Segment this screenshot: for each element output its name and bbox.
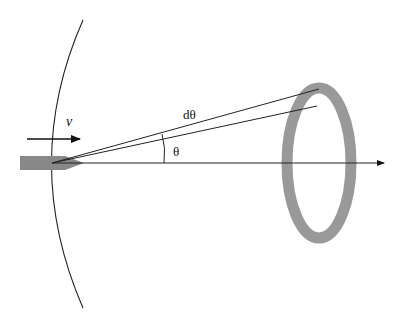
dtheta-label: dθ [183,107,196,122]
velocity-label: v [66,114,73,129]
diagram-canvas: v dθ θ [0,0,408,321]
theta-label: θ [173,144,179,159]
cone-line-outer [52,89,319,163]
